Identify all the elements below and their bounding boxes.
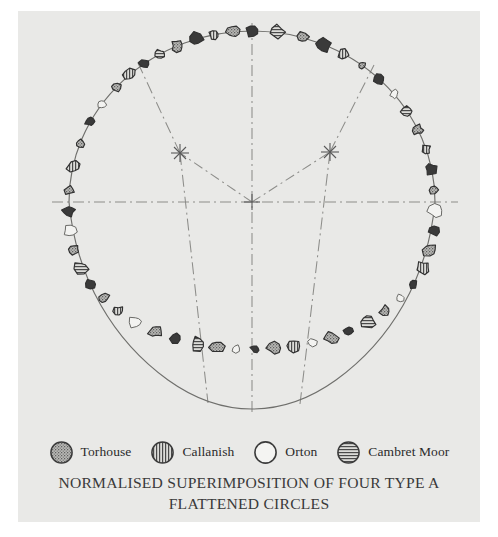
left-secondary-centre-mark	[171, 144, 189, 162]
stone-marker	[410, 280, 417, 288]
stone-marker	[98, 101, 107, 108]
stone-marker	[412, 124, 423, 135]
stone-marker	[316, 37, 332, 52]
stone-marker	[343, 327, 353, 335]
stone-marker	[397, 294, 404, 302]
diagram-svg	[18, 11, 480, 431]
flattened-circle-diagram	[18, 11, 480, 431]
legend-label-callanish: Callanish	[182, 444, 234, 460]
caption-line-1: NORMALISED SUPERIMPOSITION OF FOUR TYPE …	[18, 472, 480, 493]
stone-marker	[226, 26, 241, 36]
stone-marker	[190, 32, 204, 45]
figure-caption: NORMALISED SUPERIMPOSITION OF FOUR TYPE …	[18, 472, 480, 514]
stone-marker	[64, 225, 77, 235]
stone-marker	[74, 263, 89, 274]
construction-lines	[52, 23, 458, 415]
stone-marker	[250, 346, 259, 353]
stone-marker	[148, 327, 162, 336]
stone-marker	[129, 317, 141, 328]
stone-marker	[209, 342, 226, 351]
legend-label-orton: Orton	[285, 444, 317, 460]
radial-right-outward	[330, 65, 374, 152]
stone-marker	[270, 24, 286, 39]
stone-marker	[338, 49, 349, 59]
radial-centre-to-left	[180, 153, 252, 202]
stone-marker	[232, 345, 239, 354]
radial-right-to-bottom	[300, 152, 330, 404]
stone-marker	[379, 305, 389, 316]
caption-line-2: FLATTENED CIRCLES	[18, 493, 480, 514]
legend-swatch-orton	[253, 440, 278, 465]
legend-item-orton[interactable]: Orton	[253, 440, 317, 465]
stone-marker	[324, 332, 340, 344]
stone-marker	[429, 186, 438, 194]
figure-panel: Torhouse Callanish Orton Cambret Moor NO…	[18, 11, 480, 522]
legend-item-callanish[interactable]: Callanish	[150, 440, 234, 465]
stone-marker	[64, 186, 74, 195]
stone-marker	[86, 280, 96, 289]
legend-label-cambret-moor: Cambret Moor	[368, 444, 449, 460]
stone-marker	[400, 106, 412, 117]
stone-marker	[99, 293, 110, 302]
stone-marker	[122, 68, 135, 79]
radial-left-to-bottom	[180, 153, 208, 403]
stone-marker	[422, 145, 430, 154]
legend: Torhouse Callanish Orton Cambret Moor	[18, 434, 480, 470]
legend-swatch-callanish	[150, 440, 175, 465]
stone-marker	[427, 204, 442, 218]
right-secondary-centre-mark	[321, 143, 339, 161]
stone-marker	[77, 139, 85, 147]
radial-centre-to-right	[252, 152, 330, 202]
stone-marker	[359, 63, 366, 69]
stone-marker	[85, 117, 95, 125]
stone-marker	[113, 307, 123, 315]
primary-centre-mark	[244, 194, 260, 210]
stone-marker	[361, 316, 376, 328]
radial-left-outward	[138, 63, 180, 153]
stone-marker	[246, 26, 258, 37]
stone-marker	[172, 41, 182, 53]
stone-marker	[62, 207, 76, 217]
stone-marker	[297, 32, 309, 41]
stone-marker	[193, 336, 204, 351]
stone-marker	[155, 49, 165, 58]
stone-marker	[287, 341, 300, 353]
stone-marker	[266, 341, 281, 354]
stone-marker	[169, 333, 180, 343]
stone-marker	[66, 161, 80, 173]
legend-item-cambret-moor[interactable]: Cambret Moor	[336, 440, 449, 465]
legend-swatch-cambret-moor	[336, 440, 361, 465]
legend-swatch-torhouse	[49, 440, 74, 465]
legend-item-torhouse[interactable]: Torhouse	[49, 440, 132, 465]
stone-marker	[374, 74, 384, 85]
stone-marker	[308, 339, 318, 347]
stone-marker	[426, 164, 437, 175]
legend-label-torhouse: Torhouse	[81, 444, 132, 460]
stone-marker	[422, 245, 435, 256]
stone-marker	[69, 246, 79, 256]
stone-marker	[209, 31, 218, 40]
